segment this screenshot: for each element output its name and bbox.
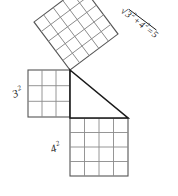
square-a-outline	[28, 70, 70, 117]
label-leg-b: 4 2	[48, 139, 63, 155]
label-leg-a-exponent: 2	[16, 84, 23, 93]
pythagorean-diagram-canvas: 3 2 4 2 √ 3 2 + 4 2 = 5	[0, 0, 178, 196]
square-a-left	[28, 70, 70, 117]
pythagorean-theorem-figure: 3 2 4 2 √ 3 2 + 4 2 = 5	[0, 0, 178, 196]
square-c-hypotenuse	[34, 0, 118, 70]
label-leg-a: 3 2	[9, 84, 25, 101]
label-hypotenuse: √ 3 2 + 4 2 = 5	[119, 4, 162, 40]
right-triangle	[70, 70, 128, 118]
square-b-bottom	[70, 118, 128, 176]
label-leg-b-exponent: 2	[55, 139, 61, 148]
